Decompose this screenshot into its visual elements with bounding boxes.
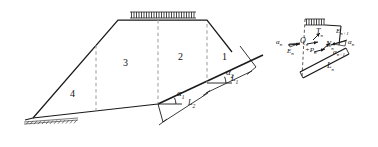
force-T-n-label: Tn <box>316 28 323 38</box>
length-2-label: L2 <box>188 99 195 109</box>
distributed-load-hatching <box>130 12 196 18</box>
fbd-alpha-n-right-label: αn <box>348 39 354 47</box>
slice-top-load-hatching <box>305 19 325 25</box>
embankment-outline <box>33 20 232 118</box>
length-1-label: L1 <box>231 75 238 85</box>
fbd-alpha-n-left-label: αn <box>276 39 282 47</box>
force-E-n-label: En <box>287 48 294 56</box>
zone-1-label: 1 <box>222 52 227 62</box>
fbd-alpha-n-plus-1-label: αn+1 <box>333 49 345 57</box>
force-E-n-plus-1-label: En+1 <box>336 28 349 36</box>
alpha-1-label: α1 <box>177 89 184 100</box>
zone-2-label: 2 <box>178 52 183 62</box>
slip-start-tick <box>158 104 163 122</box>
force-P-n-label: +Pn <box>305 47 317 55</box>
force-Q-n-vector <box>307 42 318 44</box>
zone-3-label: 3 <box>123 58 128 68</box>
ground-surface-line <box>25 104 158 120</box>
diagram-vector-layer <box>0 0 378 147</box>
fbd-length-L-n-label: Ln <box>327 62 334 72</box>
ground-surface-hatching <box>24 118 78 125</box>
figure-canvas: 1 2 3 4 α1 α2 L1 L2 Tn Qn Nn En En+1 +Pn… <box>0 0 378 147</box>
slice-top-surface-line <box>325 25 341 26</box>
slip-surface-line <box>158 55 263 104</box>
zone-4-label: 4 <box>70 89 75 99</box>
